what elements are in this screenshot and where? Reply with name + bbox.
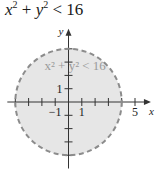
y-axis-arrow [66,29,72,36]
plot-area: x² + y² < 16 −1151 x y [0,0,161,175]
x-axis-label: x [148,105,154,117]
region-label: x² + y² < 16 [44,58,106,73]
x-tick-label: 5 [132,105,138,119]
y-axis-label: y [58,25,64,37]
y-tick-label: 1 [57,82,63,96]
x-tick-label: 1 [79,105,85,119]
x-tick-label: −1 [49,105,62,119]
